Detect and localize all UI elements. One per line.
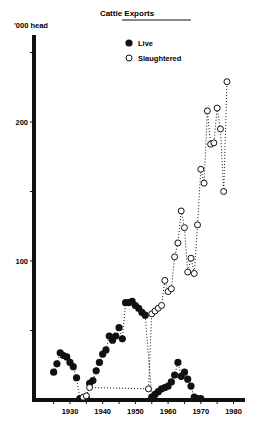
cattle-exports-chart: Cattle Exports '000 head Live Slaughtere… [0,0,261,424]
data-point [224,79,230,85]
data-point [171,371,178,378]
data-point [112,332,119,339]
data-point [197,395,204,402]
data-point [115,324,122,331]
data-point [70,363,77,370]
data-point [162,277,168,283]
data-point [187,383,194,390]
legend-item-slaughtered: Slaughtered [126,54,182,63]
data-point [214,105,220,111]
data-point [185,269,191,275]
y-tick-label: 200 [15,118,28,127]
x-tick-label: 1960 [160,407,177,416]
series-connector [54,301,201,398]
chart-title: Cattle Exports [100,9,155,18]
axes: 100200193019401950196019701980 [15,35,245,416]
data-point [53,360,60,367]
data-point [168,378,175,385]
data-point [211,140,217,146]
data-point [181,225,187,231]
data-point [221,189,227,195]
legend: Live Slaughtered [125,39,181,63]
data-point [178,208,184,214]
data-point [145,386,151,392]
y-axis-label: '000 head [14,21,48,30]
data-point [201,180,207,186]
data-point [96,359,103,366]
data-point [168,286,174,292]
data-point [191,271,197,277]
y-tick-label: 100 [15,257,28,266]
legend-label-slaughtered: Slaughtered [138,54,182,63]
data-point [175,240,181,246]
data-point [174,359,181,366]
filled-circle-icon [125,39,132,46]
data-point [83,393,89,399]
data-point [195,222,201,228]
data-point [89,377,96,384]
legend-label-live: Live [138,39,153,48]
series-live [50,298,204,403]
x-tick-label: 1930 [62,407,79,416]
x-tick-label: 1950 [127,407,144,416]
data-point [87,384,93,390]
x-tick-label: 1940 [94,407,111,416]
data-point [159,302,165,308]
data-point [73,374,80,381]
data-point [93,367,100,374]
data-point [204,108,210,114]
data-point [184,376,191,383]
data-point [181,369,188,376]
data-point [217,126,223,132]
x-tick-label: 1980 [225,407,242,416]
data-point [119,335,126,342]
data-point [102,346,109,353]
data-point [50,369,57,376]
data-point [188,255,194,261]
legend-item-live: Live [125,39,153,48]
data-point [142,312,149,319]
x-tick-label: 1970 [192,407,209,416]
open-circle-icon [126,55,132,61]
data-point [198,166,204,172]
data-point [172,254,178,260]
data-series [50,79,230,403]
